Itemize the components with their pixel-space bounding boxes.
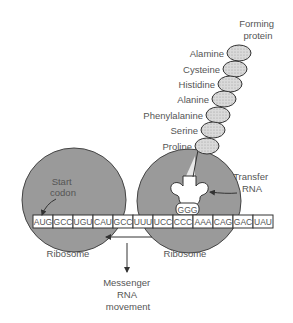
codon-text: UCC — [154, 217, 172, 227]
codon-text: AAA — [194, 217, 211, 227]
ribosome-left-label: Ribosome — [47, 248, 90, 259]
amino-acid-bead — [227, 45, 251, 61]
codon-text: GCC — [54, 217, 73, 227]
anticodon-text: GGG — [178, 205, 198, 215]
amino-acid-label: Alanine — [177, 94, 209, 105]
amino-acid-bead — [206, 107, 230, 123]
codon-text: GCC — [114, 217, 133, 227]
ribosome-left — [22, 148, 126, 252]
forming-protein-label: Forming protein — [239, 18, 276, 41]
protein-synthesis-diagram: GGG AUGGCCUGUCAUGCCUUUUCCCCCAAACAGGACUAU… — [0, 0, 293, 323]
amino-acid-bead — [218, 76, 242, 92]
ribosome-right-label: Ribosome — [164, 248, 207, 259]
codon-text: CCC — [174, 217, 192, 227]
amino-acid-label: Serine — [171, 125, 198, 136]
amino-acid-label: Cysteine — [183, 64, 220, 75]
amino-acid-bead — [212, 91, 236, 107]
amino-acid-chain: AlamineCysteineHistidineAlaninePhenylala… — [143, 45, 251, 154]
start-codon-label: Start codon — [50, 176, 76, 198]
codon-text: UAU — [254, 217, 272, 227]
amino-acid-bead — [201, 122, 225, 138]
amino-acid-bead — [223, 61, 247, 77]
amino-acid-label: Proline — [162, 141, 192, 152]
codon-text: AUG — [34, 217, 52, 227]
codon-text: CAG — [214, 217, 232, 227]
amino-acid-label: Alamine — [190, 48, 224, 59]
amino-acid-bead — [195, 138, 219, 154]
codon-text: UUU — [134, 217, 152, 227]
codon-text: CAU — [94, 217, 112, 227]
codon-text: UGU — [74, 217, 93, 227]
amino-acid-label: Histidine — [179, 79, 215, 90]
mrna-movement-label: Messenger RNA movement — [103, 277, 153, 312]
amino-acid-label: Phenylalanine — [143, 110, 203, 121]
mrna-strip: AUGGCCUGUCAUGCCUUUUCCCCCAAACAGGACUAU — [33, 215, 273, 228]
codon-text: GAC — [234, 217, 252, 227]
